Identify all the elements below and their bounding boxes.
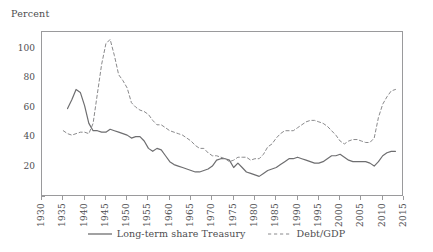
y-tick-label: 60	[9, 102, 35, 112]
legend-label: Long-term share Treasury	[117, 228, 246, 239]
series-line	[68, 89, 396, 176]
x-tick-label: 1980	[249, 203, 259, 227]
chart-legend: Long-term share TreasuryDebt/GDP	[0, 228, 433, 239]
solid-line-icon	[88, 230, 112, 238]
chart-figure: Percent 20406080100 19301935194019451950…	[0, 0, 433, 252]
x-tick-label: 1945	[100, 203, 110, 227]
x-tick-label: 1985	[270, 203, 280, 227]
x-tick-label: 1930	[36, 203, 46, 227]
x-tick-label: 2005	[355, 203, 365, 227]
x-tick-label: 2015	[398, 203, 408, 227]
x-tick-label: 1935	[57, 203, 67, 227]
axis-label-percent: Percent	[11, 8, 49, 19]
dashed-line-icon	[268, 230, 292, 238]
y-tick-label: 40	[9, 131, 35, 141]
x-tick-label: 1995	[313, 203, 323, 227]
x-tick-label: 1965	[185, 203, 195, 227]
legend-entry: Debt/GDP	[268, 228, 346, 239]
y-tick-label: 100	[9, 43, 35, 53]
x-tick-label: 1940	[79, 203, 89, 227]
x-tick-label: 1960	[164, 203, 174, 227]
legend-label: Debt/GDP	[297, 228, 346, 239]
x-tick-label: 1955	[142, 203, 152, 227]
x-tick-label: 2010	[377, 203, 387, 227]
plot-area	[41, 31, 403, 196]
x-tick-label: 1975	[228, 203, 238, 227]
x-tick-label: 1950	[121, 203, 131, 227]
legend-entry: Long-term share Treasury	[88, 228, 246, 239]
series-curves	[42, 32, 404, 197]
y-tick-label: 20	[9, 161, 35, 171]
x-tick-label: 1970	[206, 203, 216, 227]
x-tick-label: 1990	[292, 203, 302, 227]
y-tick-label: 80	[9, 72, 35, 82]
x-tick-label: 2000	[334, 203, 344, 227]
series-line	[63, 39, 395, 161]
